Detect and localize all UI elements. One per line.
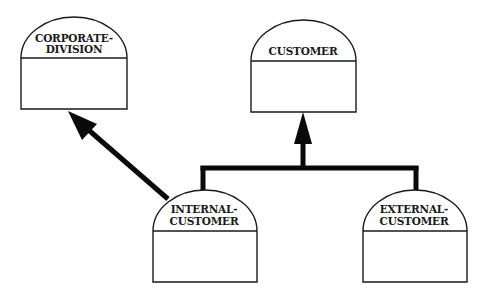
- entity-header-arc: [251, 20, 356, 112]
- diagram-canvas: CORPORATE- DIVISION CUSTOMER INTERNAL- C…: [0, 0, 484, 298]
- entity-label-line-1: CUSTOMER: [269, 45, 338, 57]
- connector-line: [84, 126, 168, 199]
- arrowhead-icon: [294, 112, 312, 144]
- entity-label-line-2: CUSTOMER: [170, 215, 239, 227]
- entity-label-line-2: CUSTOMER: [380, 215, 449, 227]
- diagram-svg: CORPORATE- DIVISION CUSTOMER INTERNAL- C…: [0, 0, 484, 298]
- entity-label-line-2: DIVISION: [46, 43, 103, 55]
- entity-corporate-division[interactable]: CORPORATE- DIVISION: [21, 17, 127, 109]
- entity-customer[interactable]: CUSTOMER: [251, 20, 356, 112]
- relationship-internal-to-corporate[interactable]: [68, 111, 168, 199]
- entity-label-line-1: EXTERNAL-: [380, 203, 448, 215]
- entity-label-line-1: INTERNAL-: [171, 203, 238, 215]
- entity-header-arc: [21, 17, 127, 109]
- entity-internal-customer[interactable]: INTERNAL- CUSTOMER: [153, 190, 257, 282]
- entity-external-customer[interactable]: EXTERNAL- CUSTOMER: [363, 190, 467, 282]
- relationship-generalization-customer[interactable]: [201, 112, 419, 190]
